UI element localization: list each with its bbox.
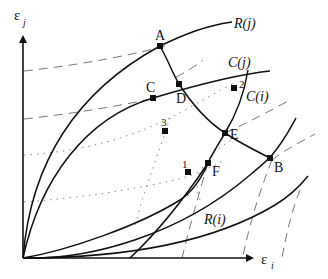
curve-label-R-j: R(j)	[233, 16, 256, 32]
curve-label-C-i: C(i)	[246, 89, 269, 105]
curve-label-R-i: R(i)	[203, 212, 226, 228]
point-D-marker	[176, 81, 182, 87]
curve-R-i	[23, 118, 296, 258]
y-axis-label: ε	[14, 7, 20, 23]
curve-label-C-j: C(j)	[228, 55, 251, 71]
curve-R-j	[23, 22, 232, 258]
point-3-marker	[162, 128, 168, 134]
diagram-svg: ε j ε i R(j) C(j) C(i) R(i) A C D 2 3 E …	[0, 0, 328, 279]
point-A-label: A	[155, 28, 166, 43]
x-axis-subscript: i	[271, 260, 274, 271]
curve-inner-lower	[23, 163, 208, 258]
curve-C-j	[23, 71, 270, 258]
point-A-marker	[157, 43, 163, 49]
point-2-label: 2	[239, 78, 245, 90]
point-B-label: B	[274, 160, 283, 175]
point-1-label: 1	[182, 158, 188, 170]
point-E-marker	[222, 130, 228, 136]
x-axis-label: ε	[261, 251, 267, 267]
point-D-label: D	[176, 91, 186, 106]
curve-outer	[23, 176, 308, 258]
point-F-marker	[205, 160, 211, 166]
y-axis-subscript: j	[21, 17, 26, 28]
point-B-marker	[267, 155, 273, 161]
point-E-label: E	[230, 127, 239, 142]
dotted-guides	[24, 82, 236, 228]
point-C-marker	[150, 95, 156, 101]
point-2-marker	[231, 85, 237, 91]
point-C-label: C	[146, 80, 155, 95]
diagram-canvas: ε j ε i R(j) C(j) C(i) R(i) A C D 2 3 E …	[0, 0, 328, 279]
solid-curves	[23, 22, 308, 258]
labels: ε j ε i R(j) C(j) C(i) R(i) A C D 2 3 E …	[14, 7, 283, 271]
point-F-label: F	[212, 164, 220, 179]
point-3-label: 3	[161, 116, 167, 128]
